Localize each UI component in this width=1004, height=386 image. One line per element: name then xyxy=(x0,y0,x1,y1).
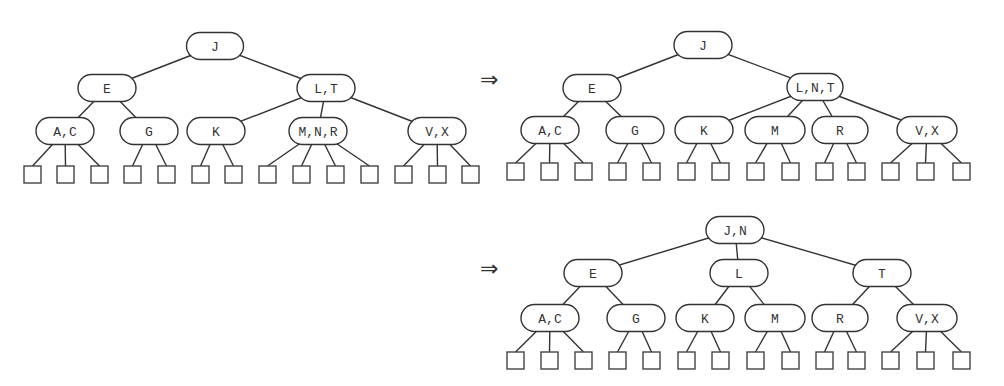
tree-before: JEL,TA,CGKM,N,RV,X xyxy=(24,33,479,184)
tree-node-g: G xyxy=(120,118,178,145)
leaf-square xyxy=(816,352,833,369)
tree-node-r: R xyxy=(812,117,868,144)
leaf-square xyxy=(507,163,524,180)
node-label: M,N,R xyxy=(298,125,337,140)
node-label: G xyxy=(145,125,153,140)
node-label: J,N xyxy=(723,224,746,239)
leaf-square xyxy=(917,163,934,180)
node-label: J xyxy=(699,39,707,54)
leaf-square xyxy=(395,166,412,183)
leaf-square xyxy=(575,352,592,369)
leaf-square xyxy=(575,163,592,180)
node-label: L,T xyxy=(314,82,338,97)
node-label: L,N,T xyxy=(795,81,834,96)
leaf-square xyxy=(712,352,729,369)
tree-node-ac: A,C xyxy=(521,117,579,144)
leaf-square xyxy=(124,166,141,183)
tree-node-lnt: L,N,T xyxy=(787,74,843,101)
node-label: V,X xyxy=(425,125,449,140)
tree-node-g: G xyxy=(607,305,665,332)
node-label: E xyxy=(588,82,596,97)
leaf-square xyxy=(24,166,41,183)
node-label: A,C xyxy=(538,312,562,327)
node-label: T xyxy=(878,267,886,282)
leaf-square xyxy=(462,166,479,183)
leaf-square xyxy=(782,352,799,369)
tree-node-j: J xyxy=(674,32,732,59)
leaf-square xyxy=(429,166,446,183)
node-label: L xyxy=(735,267,743,282)
leaf-square xyxy=(782,163,799,180)
tree-node-l: L xyxy=(710,260,768,287)
leaf-square xyxy=(192,166,209,183)
node-label: G xyxy=(631,124,639,139)
tree-node-g: G xyxy=(606,117,664,144)
leaf-square xyxy=(917,352,934,369)
leaf-square xyxy=(953,163,970,180)
node-label: A,C xyxy=(53,125,77,140)
leaf-square xyxy=(541,352,558,369)
node-label: K xyxy=(700,124,708,139)
tree-node-ac: A,C xyxy=(521,305,579,332)
leaf-square xyxy=(848,352,865,369)
leaf-square xyxy=(816,163,833,180)
leaf-square xyxy=(507,352,524,369)
tree-node-lt: L,T xyxy=(297,75,355,102)
tree-node-t: T xyxy=(853,260,911,287)
tree-node-r: R xyxy=(812,305,868,332)
leaf-square xyxy=(848,163,865,180)
node-label: V,X xyxy=(915,124,939,139)
tree-node-mnr: M,N,R xyxy=(289,118,347,145)
node-label: R xyxy=(836,312,844,327)
implies-arrow-icon: ⇒ xyxy=(480,256,498,281)
leaf-square xyxy=(678,163,695,180)
node-label: M xyxy=(771,312,779,327)
leaf-square xyxy=(361,166,378,183)
node-label: A,C xyxy=(538,124,562,139)
leaf-square xyxy=(158,166,175,183)
leaf-square xyxy=(882,352,899,369)
tree-node-j: J xyxy=(187,33,244,60)
implies-arrow-icon: ⇒ xyxy=(480,67,498,92)
leaf-square xyxy=(643,352,660,369)
node-label: K xyxy=(212,125,220,140)
node-label: G xyxy=(632,312,640,327)
tree-node-vx: V,X xyxy=(408,118,466,145)
tree-node-k: K xyxy=(676,305,734,332)
node-label: M xyxy=(771,124,779,139)
leaf-square xyxy=(293,166,310,183)
tree-diagram-canvas: JEL,TA,CGKM,N,RV,XJEL,N,TA,CGKMRV,XJ,NEL… xyxy=(0,0,1004,386)
leaf-square xyxy=(643,163,660,180)
node-label: E xyxy=(589,267,597,282)
tree-node-e: E xyxy=(78,75,136,102)
node-label: K xyxy=(701,312,709,327)
tree-node-jn: J,N xyxy=(706,217,764,244)
leaf-square xyxy=(259,166,276,183)
tree-node-e: E xyxy=(563,75,621,102)
leaf-square xyxy=(953,352,970,369)
leaf-square xyxy=(57,166,74,183)
tree-node-m: M xyxy=(745,117,805,144)
tree-node-m: M xyxy=(745,305,805,332)
leaf-square xyxy=(882,163,899,180)
tree-node-vx: V,X xyxy=(897,117,957,144)
leaf-square xyxy=(747,352,764,369)
leaf-square xyxy=(541,163,558,180)
node-label: V,X xyxy=(915,312,939,327)
tree-node-k: K xyxy=(675,117,733,144)
leaf-square xyxy=(225,166,242,183)
node-label: E xyxy=(103,82,111,97)
tree-after-first-split: JEL,N,TA,CGKMRV,X xyxy=(507,32,970,181)
leaf-square xyxy=(91,166,108,183)
node-label: J xyxy=(211,40,219,55)
node-label: R xyxy=(836,124,844,139)
leaf-square xyxy=(712,163,729,180)
leaf-square xyxy=(327,166,344,183)
leaf-square xyxy=(609,163,626,180)
tree-node-k: K xyxy=(187,118,245,145)
leaf-square xyxy=(747,163,764,180)
arrows-layer: ⇒⇒ xyxy=(480,67,498,281)
leaf-square xyxy=(678,352,695,369)
tree-after-second-split: J,NELTA,CGKMRV,X xyxy=(507,217,970,370)
tree-node-ac: A,C xyxy=(36,118,94,145)
